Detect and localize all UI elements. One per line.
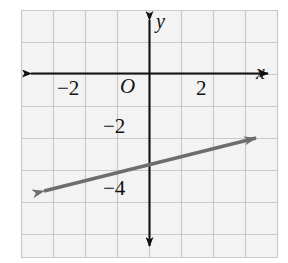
y-tick-label-negative-2: −2 bbox=[103, 116, 125, 137]
origin-label: O bbox=[120, 76, 135, 97]
coordinate-plane-svg bbox=[0, 0, 288, 263]
x-tick-label-positive-2: 2 bbox=[196, 78, 207, 99]
x-tick-label-negative-2: −2 bbox=[57, 78, 79, 99]
y-tick-label-negative-4: −4 bbox=[103, 178, 125, 199]
graph-figure: y x O −2 2 −2 −4 bbox=[0, 0, 288, 263]
y-axis-label: y bbox=[156, 11, 165, 31]
x-axis-label: x bbox=[256, 62, 265, 82]
